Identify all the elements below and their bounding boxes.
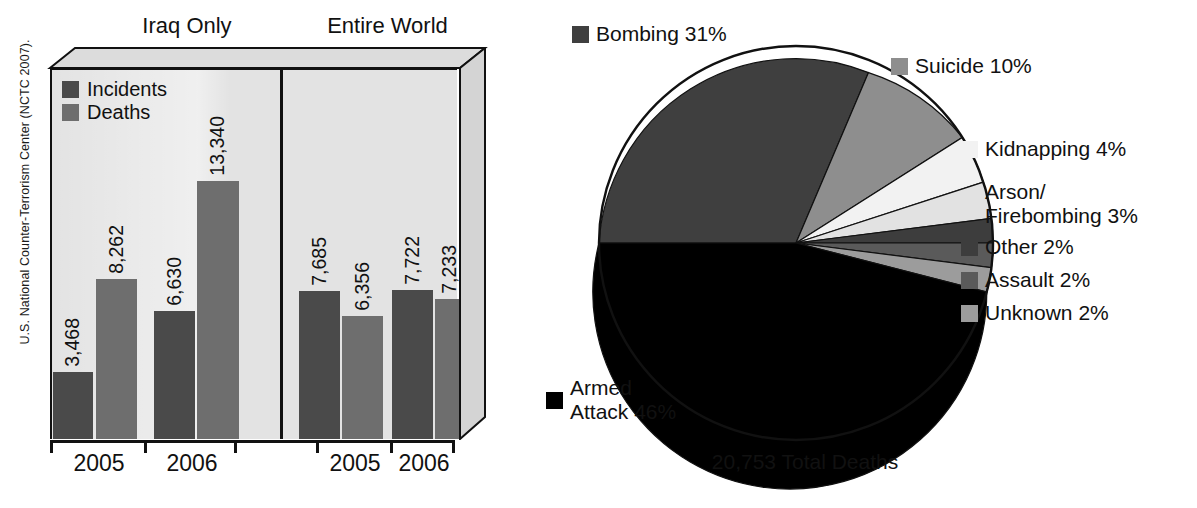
bar-value-world-2006-incidents: 7,722 (401, 236, 424, 285)
pie-total-deaths-label: 20,753 Total Deaths (640, 450, 970, 474)
pie-slices (593, 59, 993, 489)
legend-label-incidents: Incidents (87, 79, 167, 99)
bar-value-world-2005-incidents: 7,685 (308, 237, 331, 286)
pie-legend-swatch-other (961, 239, 978, 256)
bar-world-2005-incidents (299, 291, 340, 439)
pie-legend-item-suicide: Suicide 10% (891, 54, 1032, 78)
pie-legend-label-armed-line2: Attack 46% (570, 400, 676, 424)
panel-title-world: Entire World (290, 13, 485, 39)
figure-terrorism-statistics: U.S. National Counter-Terrorism Center (… (0, 0, 1197, 508)
pie-legend-label-suicide: Suicide 10% (915, 54, 1032, 78)
bar-value-world-2005-deaths: 6,356 (351, 262, 374, 311)
legend-swatch-deaths (62, 104, 79, 121)
bar-chart-legend: Incidents Deaths (62, 79, 167, 125)
pie-legend-swatch-assault (961, 272, 978, 289)
panel-title-iraq: Iraq Only (97, 13, 277, 39)
pie-legend-item-arson-firebombing: Arson/ Firebombing 3% (961, 180, 1138, 228)
x-axis-line (50, 440, 455, 443)
x-axis-label-iraq-2006: 2006 (148, 450, 236, 477)
bar-value-iraq-2005-incidents: 3,468 (61, 318, 84, 367)
pie-legend-label-arson-line1: Arson/ (985, 180, 1138, 204)
panel-divider (280, 68, 283, 439)
bar-world-2006-incidents (392, 290, 433, 439)
pie-legend-label-unknown: Unknown 2% (985, 301, 1109, 325)
bar-iraq-2006-deaths (197, 181, 239, 439)
pie-legend-item-bombing: Bombing 31% (572, 22, 727, 46)
bar-iraq-2005-deaths (96, 279, 137, 439)
pie-legend-swatch-suicide (891, 58, 908, 75)
pie-legend-swatch-kidnapping (961, 141, 978, 158)
pie-legend-label-armed-line1: Armed (570, 376, 676, 400)
x-axis-label-world-2006: 2006 (393, 450, 455, 477)
x-axis-tick (50, 440, 53, 453)
pie-legend-label-kidnapping: Kidnapping 4% (985, 137, 1126, 161)
pie-legend-item-unknown: Unknown 2% (961, 301, 1109, 325)
bar-value-iraq-2006-deaths: 13,340 (206, 116, 229, 176)
legend-item-incidents: Incidents (62, 79, 167, 99)
bar-value-world-2006-deaths: 7,233 (438, 245, 461, 294)
pie-legend-label-bombing: Bombing 31% (596, 22, 727, 46)
bar-world-2005-deaths (342, 316, 383, 439)
legend-item-deaths: Deaths (62, 102, 167, 122)
bar-world-2006-deaths (435, 299, 459, 439)
pie-legend-swatch-unknown (961, 305, 978, 322)
pie-legend-item-armed-attack: Armed Attack 46% (546, 376, 676, 424)
bar-iraq-2006-incidents (154, 311, 195, 439)
chart-3d-box: Incidents Deaths 3,468 8,262 6,630 13,34… (44, 47, 492, 440)
pie-legend-swatch-arson-firebombing (961, 196, 978, 213)
pie-legend-item-assault: Assault 2% (961, 268, 1090, 292)
legend-swatch-incidents (62, 81, 79, 98)
pie-legend-item-other: Other 2% (961, 235, 1074, 259)
pie-legend-swatch-bombing (572, 26, 589, 43)
bar-value-iraq-2005-deaths: 8,262 (105, 225, 128, 274)
bar-chart: U.S. National Counter-Terrorism Center (… (0, 0, 560, 508)
x-axis-tick (316, 440, 319, 453)
x-axis-tick (144, 440, 147, 453)
pie-legend-label-arson-line2: Firebombing 3% (985, 204, 1138, 228)
pie-chart: Bombing 31% Suicide 10% Kidnapping 4% Ar… (540, 0, 1197, 508)
pie-legend-label-assault: Assault 2% (985, 268, 1090, 292)
source-attribution-label: U.S. National Counter-Terrorism Center (… (18, 27, 32, 357)
pie-graphic (540, 0, 1197, 508)
pie-legend-item-kidnapping: Kidnapping 4% (961, 137, 1126, 161)
pie-legend-swatch-armed-attack (546, 392, 563, 409)
legend-label-deaths: Deaths (87, 102, 150, 122)
bar-value-iraq-2006-incidents: 6,630 (163, 257, 186, 306)
bar-iraq-2005-incidents (53, 372, 93, 439)
pie-legend-label-other: Other 2% (985, 235, 1074, 259)
x-axis-label-iraq-2005: 2005 (55, 450, 143, 477)
x-axis-label-world-2005: 2005 (320, 450, 390, 477)
